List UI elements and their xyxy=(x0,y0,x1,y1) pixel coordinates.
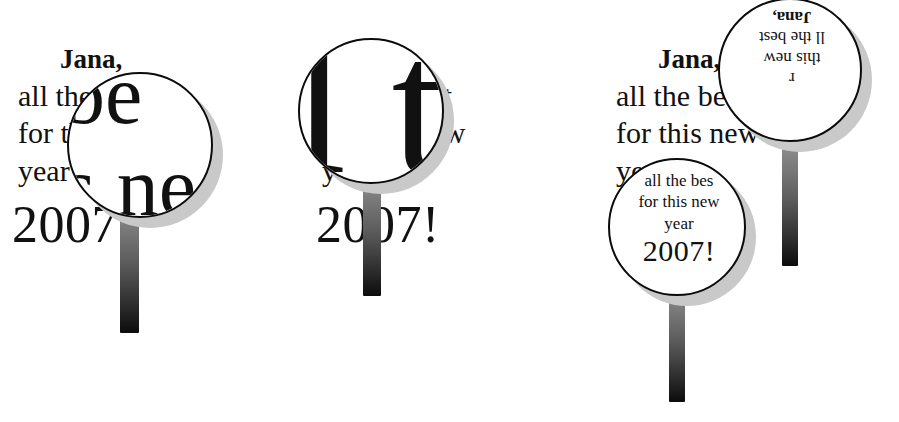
lens-text-line-3: this new xyxy=(728,50,856,67)
lens-text-line-2: ll the best xyxy=(728,29,856,46)
doc-line-3: for this new xyxy=(616,118,759,149)
magnifier-handle[interactable] xyxy=(363,178,381,296)
lens-text-line-2: for this new xyxy=(616,193,742,210)
magnifier-handle[interactable] xyxy=(782,146,798,266)
lens-right-top[interactable]: r this new ll the best Jana, xyxy=(718,0,862,142)
lens-middle[interactable]: l t xyxy=(298,38,444,184)
lens-magnified-text: be s ne xyxy=(67,72,196,218)
lens-left[interactable]: be s ne xyxy=(67,72,213,218)
lens-text-line-4: r xyxy=(728,70,856,87)
doc-line-year: 2007! xyxy=(316,198,465,251)
panel-extreme-magnification: Jana, all the best for this new year 200… xyxy=(300,0,600,422)
lens-text-line-year: 2007! xyxy=(616,236,742,267)
figure-canvas: Jana, all the best for this new year 200… xyxy=(0,0,899,422)
lens-text-line-1: Jana, xyxy=(728,9,856,26)
panel-magnification: Jana, all the best for this new year 200… xyxy=(0,0,300,422)
lens-right-bottom[interactable]: all the bes for this new year 2007! xyxy=(608,158,746,296)
lens-text-line-1: all the bes xyxy=(616,172,742,189)
panel-rotation-and-minification: Jana, all the best for this new year 200… xyxy=(600,0,899,422)
lens-text-line-3: year xyxy=(616,215,742,232)
lens-magnified-text: l t xyxy=(298,38,444,184)
lens-text-line-1: be xyxy=(67,72,196,138)
lens-rotated-text: r this new ll the best Jana, xyxy=(728,6,856,87)
lens-text-line-2: s ne xyxy=(67,144,196,218)
magnifier-handle[interactable] xyxy=(669,290,685,402)
doc-line-greeting: Jana, xyxy=(60,46,161,74)
lens-minified-text: all the bes for this new year 2007! xyxy=(616,172,742,271)
